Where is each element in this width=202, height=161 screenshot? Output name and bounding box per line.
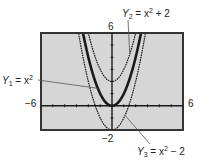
graphing-calculator-figure: 6 −2 −6 6 Y1 = x2 Y2 = x2 + 2 Y3 = x2 − … xyxy=(0,0,202,161)
x-max-label: 6 xyxy=(188,98,194,109)
y-min-label: −2 xyxy=(102,133,114,144)
y3-equation-label: Y3 = x2 − 2 xyxy=(137,145,185,158)
x-min-label: −6 xyxy=(25,98,37,109)
y2-equation-label: Y2 = x2 + 2 xyxy=(122,7,170,20)
y1-equation-label: Y1 = x2 xyxy=(2,74,33,87)
y-max-label: 6 xyxy=(108,21,114,32)
